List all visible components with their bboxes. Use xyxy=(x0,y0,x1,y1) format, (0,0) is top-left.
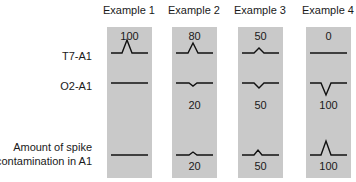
t7-trace xyxy=(238,37,283,57)
row-label-contamination-1: Amount of spike xyxy=(13,141,92,154)
o2-spike-value: 50 xyxy=(238,99,283,111)
column-header-2: Example 2 xyxy=(159,4,229,16)
contamination-value: 20 xyxy=(172,160,217,172)
row-label-contamination-2: contamination in A1 xyxy=(0,155,92,168)
t7-trace xyxy=(107,37,152,57)
o2-spike-value: 20 xyxy=(172,99,217,111)
o2-trace xyxy=(238,67,283,87)
contamination-trace xyxy=(306,139,351,159)
row-label-t7: T7-A1 xyxy=(62,50,92,63)
example-panel-2: 80 20 20 xyxy=(172,27,217,178)
example-panel-3: 50 50 50 xyxy=(238,27,283,178)
o2-trace xyxy=(107,67,152,87)
contamination-value: 100 xyxy=(306,160,351,172)
o2-trace xyxy=(306,67,351,87)
contamination-trace xyxy=(107,139,152,159)
column-header-1: Example 1 xyxy=(94,4,164,16)
example-panel-4: 0 100 100 xyxy=(306,27,351,178)
t7-trace xyxy=(172,37,217,57)
contamination-value: 50 xyxy=(238,160,283,172)
column-header-3: Example 3 xyxy=(225,4,295,16)
o2-trace xyxy=(172,67,217,87)
column-header-4: Example 4 xyxy=(293,4,356,16)
example-panel-1: 100 xyxy=(107,27,152,178)
contamination-trace xyxy=(238,139,283,159)
t7-trace xyxy=(306,37,351,57)
row-label-o2: O2-A1 xyxy=(60,80,92,93)
contamination-trace xyxy=(172,139,217,159)
o2-spike-value: 100 xyxy=(306,99,351,111)
